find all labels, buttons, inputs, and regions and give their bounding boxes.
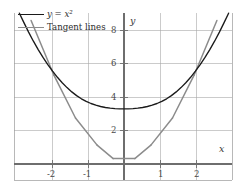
y-axis-label: y	[130, 16, 135, 26]
legend-label-curve-text: y = x²	[47, 9, 73, 19]
legend-item-curve: y = x²	[18, 8, 130, 21]
figure-parabola-tangent-lines: y = x² Tangent lines 8 6 4 2 -2 -1 1 2 y…	[0, 0, 243, 191]
legend-label-curve: y = x²	[47, 8, 73, 21]
x-tick-label-minus2: -2	[47, 170, 55, 179]
x-tick-label-minus1: -1	[83, 170, 91, 179]
y-tick-label-6: 6	[111, 59, 116, 68]
y-tick-label-8: 8	[111, 26, 116, 35]
legend-swatch-curve	[18, 14, 44, 15]
y-tick-label-4: 4	[111, 93, 116, 102]
x-tick-label-1: 1	[158, 170, 163, 179]
y-tick-label-2: 2	[111, 126, 116, 135]
legend-swatch-tangent-lines	[18, 27, 44, 28]
legend-label-tangent-lines: Tangent lines	[47, 21, 106, 34]
x-tick-label-2: 2	[194, 170, 199, 179]
x-axis-label: x	[219, 144, 224, 154]
legend-label-tangent-lines-text: Tangent lines	[47, 22, 106, 32]
